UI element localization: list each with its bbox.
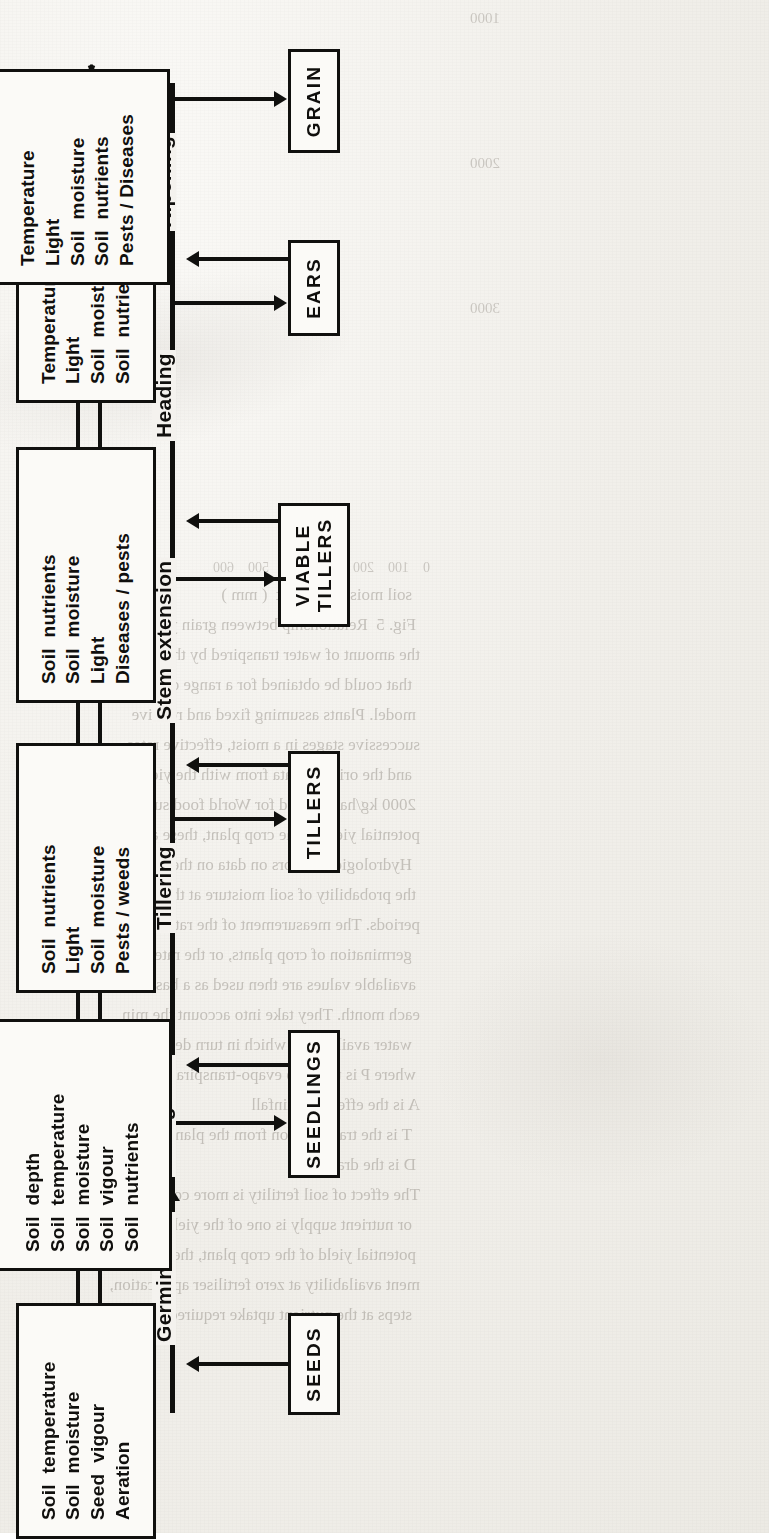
factor-item: Soil temperature xyxy=(37,1322,62,1520)
arrowhead-spine-to-grain xyxy=(274,91,287,107)
connector-spine-to-grain xyxy=(172,97,276,101)
factor-box-heading[interactable]: Temperature Light Soil moisture Soil nut… xyxy=(16,169,156,403)
stage-box-viable-tillers[interactable]: VIABLE TILLERS xyxy=(278,503,350,627)
factor-item: Diseases / pests xyxy=(111,466,136,684)
arrowhead-spine-to-viable-tillers xyxy=(264,571,277,587)
factor-item: Soil nutrients xyxy=(37,762,62,974)
factor-item: Soil nutrients xyxy=(37,466,62,684)
factor-item: Soil moisture xyxy=(86,762,111,974)
factor-item: Soil temperature xyxy=(46,1038,71,1252)
connector-tillers-up xyxy=(196,763,290,767)
stage-box-label: SEEDLINGS xyxy=(303,1039,325,1169)
connector-spine-to-ears xyxy=(172,301,276,305)
stage-box-label: EARS xyxy=(303,257,325,319)
arrowhead-ears-to-spine xyxy=(186,251,199,267)
factor-item: Light xyxy=(61,188,86,384)
arrowhead-seedlings-to-spine xyxy=(186,1057,199,1073)
factor-item: Light xyxy=(86,466,111,684)
factor-item: Soil moisture xyxy=(86,188,111,384)
factor-item: Soil moisture xyxy=(61,466,86,684)
arrowhead-spine-to-seedlings xyxy=(274,1115,287,1131)
stage-box-tillers[interactable]: TILLERS xyxy=(288,751,340,873)
arrowhead-seeds-to-spine xyxy=(186,1356,199,1372)
factor-item: Light xyxy=(61,762,86,974)
connector-viable-tillers-up xyxy=(196,519,280,523)
connector-ears-up xyxy=(196,257,290,261)
factor-item: Soil moisture xyxy=(61,1322,86,1520)
stage-box-label: VIABLE TILLERS xyxy=(292,518,337,613)
stage-box-seedlings[interactable]: SEEDLINGS xyxy=(288,1030,340,1178)
connector-spine-to-tillers xyxy=(172,817,276,821)
factor-item: Temperature xyxy=(37,188,62,384)
connector-spine-to-seedlings xyxy=(172,1121,276,1125)
stage-box-label: SEEDS xyxy=(303,1326,325,1401)
stage-box-label: TILLERS xyxy=(303,765,325,860)
connector-seedlings-up xyxy=(196,1063,290,1067)
stage-box-label: GRAIN xyxy=(303,65,325,137)
factor-item: Pests / weeds xyxy=(111,762,136,974)
arrowhead-spine-to-ears xyxy=(274,295,287,311)
factor-item: Aeration xyxy=(111,1322,136,1520)
factor-box-emergence[interactable]: Soil depth Soil temperature Soil moistur… xyxy=(0,1019,172,1271)
factor-item: Soil vigour xyxy=(95,1038,120,1252)
factor-item: Soil nutrients xyxy=(120,1038,145,1252)
factor-item: Soil moisture xyxy=(71,1038,96,1252)
connector-seeds-up xyxy=(196,1362,290,1366)
stage-box-grain[interactable]: GRAIN xyxy=(288,49,340,153)
factor-box-tillering[interactable]: Soil nutrients Light Soil moisture Pests… xyxy=(16,743,156,993)
arrowhead-tillers-to-spine xyxy=(186,757,199,773)
factor-box-germination[interactable]: Soil temperature Soil moisture Seed vigo… xyxy=(16,1303,156,1539)
arrowhead-spine-to-tillers xyxy=(274,811,287,827)
factor-item: Soil nutrients xyxy=(111,188,136,384)
stage-box-seeds[interactable]: SEEDS xyxy=(288,1313,340,1415)
factor-item: Soil depth xyxy=(21,1038,46,1252)
block-arrow-to-heading xyxy=(76,65,102,169)
stage-box-ears[interactable]: EARS xyxy=(288,240,340,336)
arrowhead-viable-tillers-to-spine xyxy=(186,513,199,529)
factor-box-stem-extension[interactable]: Soil nutrients Soil moisture Light Disea… xyxy=(16,447,156,703)
factor-item: Seed vigour xyxy=(86,1322,111,1520)
